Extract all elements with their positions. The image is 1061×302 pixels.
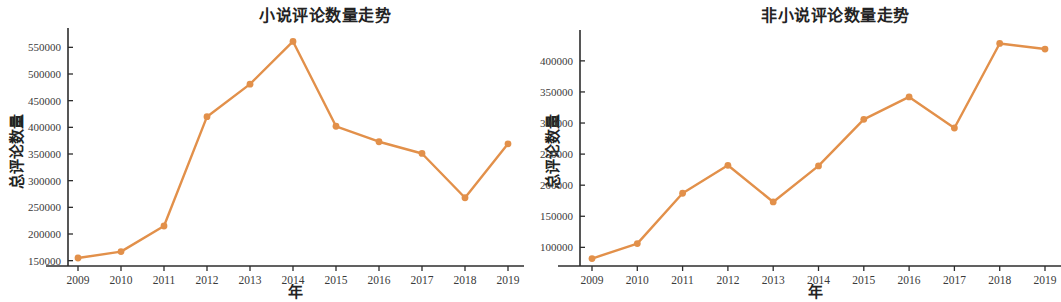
data-point-marker (290, 38, 297, 45)
data-point-marker (204, 113, 211, 120)
y-tick-label: 250000 (28, 201, 62, 213)
data-point-marker (860, 116, 867, 123)
y-tick-label: 400000 (28, 121, 62, 133)
data-point-marker (462, 194, 469, 201)
data-point-marker (815, 163, 822, 170)
data-point-marker (376, 138, 383, 145)
x-axis-label-novel: 年 (0, 280, 560, 301)
y-tick-label: 400000 (540, 55, 574, 67)
line-chart-novel: 1500002000002500003000003500004000004500… (0, 0, 530, 302)
data-point-marker (996, 40, 1003, 47)
chart-panel-novel: 小说评论数量走势 总评论数量 1500002000002500003000003… (0, 0, 530, 302)
figure-container: 小说评论数量走势 总评论数量 1500002000002500003000003… (0, 0, 1061, 302)
data-point-marker (634, 240, 641, 247)
data-point-marker (1042, 46, 1049, 53)
data-point-marker (333, 123, 340, 130)
data-point-marker (161, 223, 168, 230)
y-tick-label: 350000 (28, 148, 62, 160)
y-tick-label: 300000 (28, 175, 62, 187)
y-tick-label: 300000 (540, 117, 574, 129)
series-line (78, 41, 508, 258)
data-point-marker (906, 94, 913, 101)
chart-panel-nonfiction: 非小说评论数量走势 总评论数量 100000150000200000250000… (530, 0, 1061, 302)
series-line (592, 43, 1045, 258)
data-point-marker (419, 150, 426, 157)
y-tick-label: 500000 (28, 68, 62, 80)
y-tick-label: 550000 (28, 41, 62, 53)
y-tick-label: 150000 (28, 255, 62, 267)
y-tick-label: 100000 (540, 241, 574, 253)
data-point-marker (951, 125, 958, 132)
y-tick-label: 150000 (540, 210, 574, 222)
data-point-marker (725, 162, 732, 169)
data-point-marker (75, 255, 82, 262)
y-tick-label: 350000 (540, 86, 574, 98)
y-tick-label: 450000 (28, 95, 62, 107)
x-axis-label-nonfiction: 年 (530, 280, 1061, 301)
y-tick-label: 250000 (540, 148, 574, 160)
data-point-marker (505, 140, 512, 147)
data-point-marker (589, 255, 596, 262)
data-point-marker (247, 81, 254, 88)
data-point-marker (118, 248, 125, 255)
data-point-marker (679, 190, 686, 197)
y-tick-label: 200000 (540, 179, 574, 191)
line-chart-nonfiction: 1000001500002000002500003000003500004000… (530, 0, 1061, 302)
y-tick-label: 200000 (28, 228, 62, 240)
data-point-marker (770, 199, 777, 206)
